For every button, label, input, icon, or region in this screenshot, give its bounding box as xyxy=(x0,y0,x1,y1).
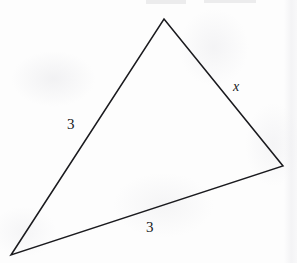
geometry-figure: 3 3 x xyxy=(0,0,297,263)
side-label-left: 3 xyxy=(67,117,75,132)
side-label-right-unknown: x xyxy=(233,80,239,94)
side-label-bottom: 3 xyxy=(146,220,154,235)
